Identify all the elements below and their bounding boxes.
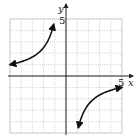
y-axis-label: y	[57, 3, 64, 14]
x-axis-label: x	[128, 77, 134, 88]
y-tick-label: 5	[59, 15, 65, 26]
function-graph: y 5 5 x	[0, 0, 137, 139]
axes	[8, 4, 133, 135]
x-tick-label: 5	[118, 77, 124, 88]
